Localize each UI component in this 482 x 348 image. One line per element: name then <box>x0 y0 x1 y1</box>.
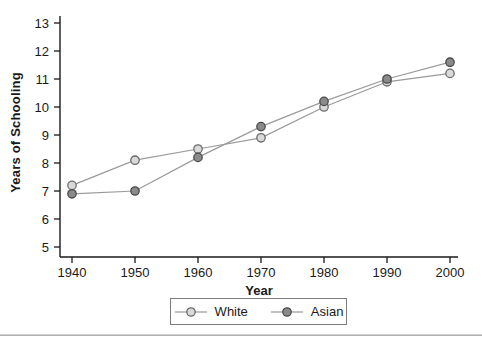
data-point-asian-2000 <box>446 58 454 66</box>
data-point-asian-1980 <box>320 97 328 105</box>
legend-marker-white-icon <box>174 306 208 318</box>
legend-circle-white <box>186 307 194 315</box>
legend-label-asian: Asian <box>311 304 344 319</box>
y-tick-label: 7 <box>42 184 49 199</box>
data-point-white-1940 <box>68 181 76 189</box>
x-tick-label: 1960 <box>184 265 213 280</box>
legend-label-white: White <box>215 304 248 319</box>
figure-canvas: 5678910111213194019501960197019801990200… <box>0 0 482 348</box>
data-point-white-1970 <box>257 134 265 142</box>
y-tick-label: 8 <box>42 156 49 171</box>
x-tick-label: 1940 <box>58 265 87 280</box>
data-point-white-2000 <box>446 69 454 77</box>
data-point-white-1950 <box>131 156 139 164</box>
y-tick-label: 10 <box>35 100 49 115</box>
x-axis-title: Year <box>245 283 272 298</box>
legend-item-white: White <box>174 304 248 319</box>
legend: White Asian <box>170 298 347 325</box>
line-chart: 5678910111213194019501960197019801990200… <box>0 0 482 284</box>
y-tick-label: 12 <box>35 44 49 59</box>
x-tick-label: 1980 <box>310 265 339 280</box>
y-tick-label: 6 <box>42 212 49 227</box>
x-tick-label: 1950 <box>121 265 150 280</box>
data-point-white-1960 <box>194 145 202 153</box>
data-point-asian-1960 <box>194 153 202 161</box>
y-tick-label: 11 <box>36 72 50 87</box>
y-tick-label: 5 <box>42 240 49 255</box>
legend-circle-asian <box>283 307 291 315</box>
legend-marker-asian-icon <box>270 306 304 318</box>
data-point-asian-1990 <box>383 75 391 83</box>
x-tick-label: 1970 <box>247 265 276 280</box>
data-point-asian-1970 <box>257 122 265 130</box>
data-point-asian-1940 <box>68 190 76 198</box>
y-tick-label: 13 <box>35 16 49 31</box>
y-axis-title: Years of Schooling <box>8 65 23 200</box>
x-tick-label: 2000 <box>436 265 465 280</box>
data-point-asian-1950 <box>131 187 139 195</box>
x-tick-label: 1990 <box>373 265 402 280</box>
legend-item-asian: Asian <box>270 304 344 319</box>
y-tick-label: 9 <box>42 128 49 143</box>
bottom-separator-rule <box>0 334 482 336</box>
